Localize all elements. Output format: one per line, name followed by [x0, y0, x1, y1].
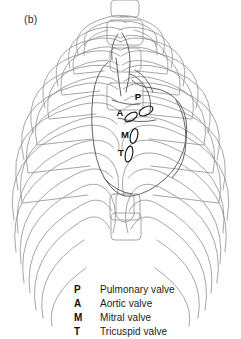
rib-4-left-lower [48, 60, 119, 119]
heart-outline [92, 62, 187, 196]
legend-row-tricuspid: T Tricuspid valve [74, 325, 224, 339]
legend-key-aortic: A [74, 297, 100, 311]
sternum-manubrium [107, 20, 143, 45]
legend-label-mitral: Mitral valve [100, 311, 151, 325]
valve-mark-tricuspid: T [118, 148, 124, 158]
legend-key-pulmonary: P [74, 283, 100, 297]
rib-2-right-cartilage [137, 71, 166, 74]
rib-10-left-lower [29, 200, 112, 293]
rib-7-right-cartilage [153, 195, 218, 203]
pulmonary-valve-ellipse [138, 104, 155, 118]
rib-3-right-cartilage [141, 91, 178, 95]
figure-root: (b) [0, 0, 241, 339]
legend-label-tricuspid: Tricuspid valve [100, 325, 167, 339]
legend-key-tricuspid: T [74, 325, 100, 339]
rib-10-right [125, 184, 218, 283]
legend: P Pulmonary valve A Aortic valve M Mitra… [74, 283, 224, 339]
rib-2-left-lower [73, 35, 120, 74]
pulmonary-trunk-outer [135, 70, 153, 92]
av-groove [118, 118, 156, 122]
rib-10-right-lower [129, 200, 212, 293]
rib-7-left-cartilage [23, 195, 88, 203]
rib-4-left-cartilage [50, 114, 96, 119]
rib-4-right-cartilage [145, 114, 191, 119]
legend-key-mitral: M [74, 311, 100, 325]
xiphoid-process [116, 196, 134, 222]
aorta-ascending [112, 34, 118, 60]
legend-row-aortic: A Aortic valve [74, 297, 224, 311]
clavicle-right [124, 21, 157, 46]
legend-label-pulmonary: Pulmonary valve [100, 283, 175, 297]
ribs-left [12, 27, 122, 326]
aorta-inner [116, 58, 121, 96]
valve-mark-pulmonary: P [135, 92, 141, 102]
legend-row-pulmonary: P Pulmonary valve [74, 283, 224, 297]
sternum-segment-top [111, 0, 139, 17]
rib-9-right-lower [128, 169, 221, 264]
rib-3-left-cartilage [63, 91, 100, 95]
rib-4-left [43, 51, 120, 108]
valve-mark-mitral: M [121, 130, 129, 140]
legend-label-aortic: Aortic valve [100, 297, 152, 311]
rib-10-left [23, 184, 116, 283]
ribcage-group [12, 0, 229, 326]
tricuspid-valve-ellipse [124, 145, 134, 162]
rib-4-right [121, 51, 198, 108]
rib-9-left-lower [20, 169, 113, 264]
valve-mark-aortic: A [117, 108, 124, 118]
upper-thorax-arches [77, 15, 165, 55]
mitral-valve-ellipse [129, 128, 140, 144]
rib-6-left-lower [26, 95, 117, 173]
rib-2-right-lower [121, 35, 168, 74]
legend-row-mitral: M Mitral valve [74, 311, 224, 325]
